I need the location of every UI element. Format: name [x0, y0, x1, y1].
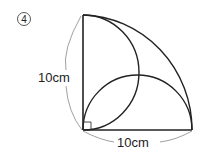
- horizontal-dimension-arc-right: [160, 131, 192, 142]
- vertical-dimension-arc-bottom: [66, 86, 82, 130]
- vertical-side-label: 10cm: [38, 70, 70, 85]
- figure-diagram: 4 10cm 10cm: [0, 0, 206, 153]
- right-angle-mark: [83, 122, 91, 130]
- horizontal-dimension-arc-left: [83, 131, 114, 142]
- problem-number: 4: [21, 14, 27, 25]
- problem-number-badge: 4: [18, 13, 31, 26]
- horizontal-side-label: 10cm: [117, 135, 149, 150]
- quarter-circle-arc: [83, 15, 192, 130]
- semicircle-vertical: [83, 15, 139, 130]
- vertical-dimension-arc-top: [65, 16, 81, 70]
